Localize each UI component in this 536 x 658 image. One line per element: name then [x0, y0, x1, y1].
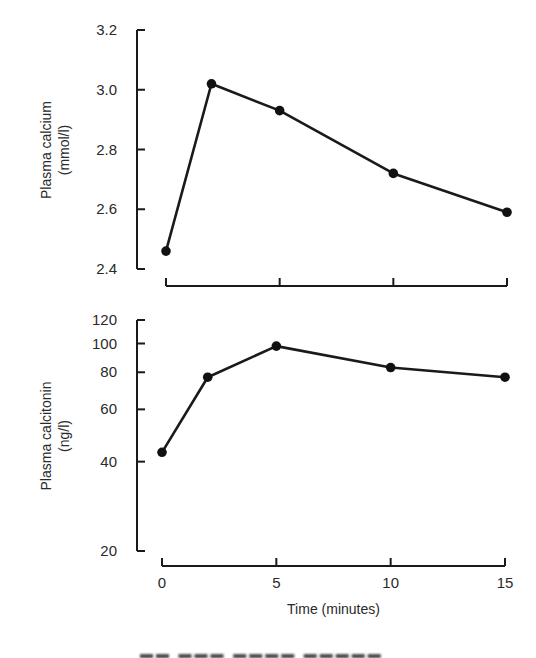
x-tick-label: 15	[497, 574, 514, 591]
figure: 2.42.62.83.03.2Plasma calcium(mmol/l) 20…	[0, 0, 536, 658]
data-point	[207, 79, 217, 89]
y-tick-label: 80	[100, 363, 117, 380]
y-tick-label: 100	[92, 335, 117, 352]
data-point	[157, 448, 167, 458]
y-tick-label: 3.2	[96, 21, 117, 38]
y-tick-label: 40	[100, 453, 117, 470]
data-point	[272, 341, 282, 351]
y-tick-label: 3.0	[96, 81, 117, 98]
calcitonin-panel: 20406080100120051015Plasma calcitonin(ng…	[38, 311, 513, 617]
y-tick-label: 2.4	[96, 260, 117, 277]
calcium-panel: 2.42.62.83.03.2Plasma calcium(mmol/l)	[38, 21, 512, 286]
y-axis-title: Plasma calcium	[38, 101, 54, 199]
data-point	[502, 207, 512, 217]
data-point	[275, 106, 285, 116]
y-axis-title: Plasma calcitonin	[38, 382, 54, 491]
x-tick-label: 5	[272, 574, 280, 591]
data-point	[389, 169, 399, 179]
series-line	[162, 346, 505, 452]
y-tick-label: 2.8	[96, 141, 117, 158]
series-line	[166, 84, 507, 251]
x-tick-label: 10	[382, 574, 399, 591]
data-point	[161, 246, 171, 256]
data-point	[203, 372, 213, 382]
data-point	[500, 372, 510, 382]
y-tick-label: 60	[100, 400, 117, 417]
y-tick-label: 2.6	[96, 200, 117, 217]
x-tick-label: 0	[158, 574, 166, 591]
x-axis-title: Time (minutes)	[287, 601, 380, 617]
y-tick-label: 20	[100, 542, 117, 559]
y-tick-label: 120	[92, 311, 117, 328]
data-point	[386, 363, 396, 373]
y-axis-unit: (ng/l)	[56, 420, 72, 452]
y-axis-unit: (mmol/l)	[56, 125, 72, 176]
figure-caption-cutoff: ▬▬ ▬▬▬ ▬▬▬▬ ▬▬▬▬▬ ▬▬ ▬▬▬▬▬	[140, 646, 420, 658]
